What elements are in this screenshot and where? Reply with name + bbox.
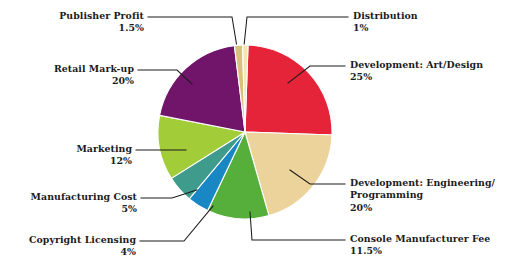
pie-slices (158, 45, 332, 219)
label-dev-art-design: Development: Art/Design 25% (350, 59, 483, 84)
leader-line-distribution (244, 17, 348, 44)
label-retail-mark-up-name: Retail Mark-up (54, 63, 134, 74)
leader-line-copyright-licensing (140, 206, 213, 241)
label-distribution-name: Distribution (353, 10, 418, 21)
label-dev-engineering-name-line1: Development: Engineering/ (350, 177, 495, 188)
label-copyright-licensing: Copyright Licensing 4% (29, 234, 136, 259)
label-publisher-profit: Publisher Profit 1.5% (59, 10, 144, 35)
label-publisher-profit-pct: 1.5% (59, 22, 144, 34)
label-dev-art-design-pct: 25% (350, 71, 483, 83)
label-distribution-pct: 1% (353, 22, 418, 34)
label-retail-mark-up: Retail Mark-up 20% (54, 63, 134, 88)
label-manufacturing-cost-pct: 5% (31, 203, 137, 215)
label-manufacturing-cost-name: Manufacturing Cost (31, 191, 137, 202)
label-publisher-profit-name: Publisher Profit (59, 10, 144, 21)
label-marketing-name: Marketing (76, 143, 132, 154)
label-copyright-licensing-pct: 4% (29, 246, 136, 258)
label-distribution: Distribution 1% (353, 10, 418, 35)
pie-chart-page: Publisher Profit 1.5% Retail Mark-up 20%… (0, 0, 528, 276)
label-console-manufacturer-fee-pct: 11.5% (350, 245, 490, 257)
label-copyright-licensing-name: Copyright Licensing (29, 234, 136, 245)
label-dev-engineering: Development: Engineering/ Programming 20… (350, 177, 495, 214)
leader-line-publisher-profit (148, 17, 237, 44)
label-dev-engineering-pct: 20% (350, 202, 495, 214)
label-dev-art-design-name: Development: Art/Design (350, 59, 483, 70)
pie-slice-development-art-design[interactable] (245, 45, 332, 135)
label-manufacturing-cost: Manufacturing Cost 5% (31, 191, 137, 216)
label-retail-mark-up-pct: 20% (54, 75, 134, 87)
label-console-manufacturer-fee-name: Console Manufacturer Fee (350, 233, 490, 244)
label-dev-engineering-name-line2: Programming (350, 189, 495, 201)
label-marketing: Marketing 12% (76, 143, 132, 168)
label-marketing-pct: 12% (76, 155, 132, 167)
label-console-manufacturer-fee: Console Manufacturer Fee 11.5% (350, 233, 490, 258)
